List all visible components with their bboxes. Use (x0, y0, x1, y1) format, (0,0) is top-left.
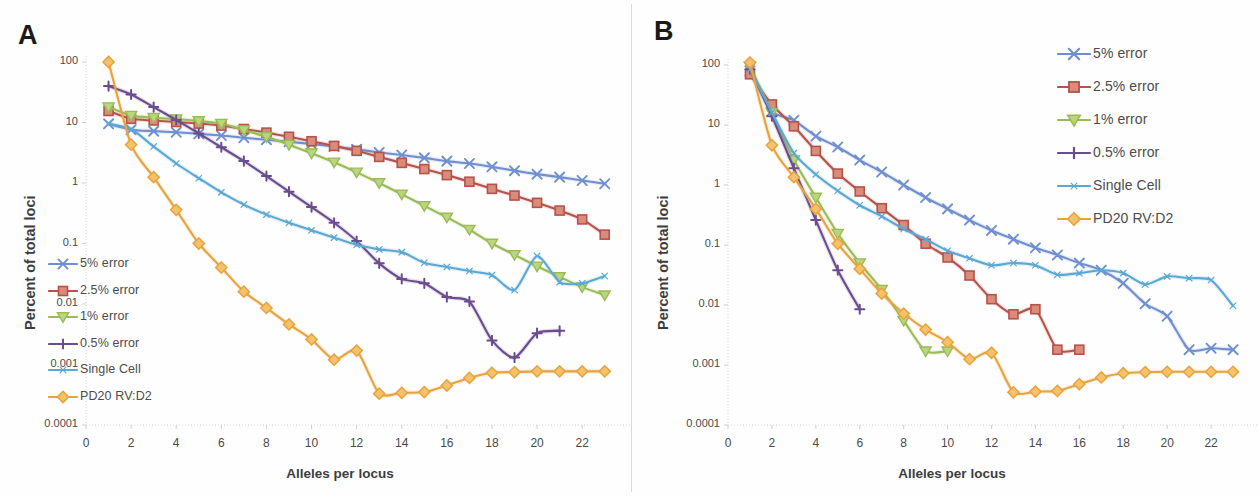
legend-item-0-5-error[interactable]: 0.5% error (1057, 135, 1173, 168)
legend-item-label: 0.5% error (80, 336, 139, 350)
legend-item-label: 1% error (1093, 111, 1147, 127)
panel-b: B Percent of total loci Alleles per locu… (632, 0, 1260, 498)
legend-item-1-error[interactable]: 1% error (1057, 102, 1173, 135)
legend-marker-icon (1057, 79, 1091, 93)
legend-item-label: 2.5% error (1093, 78, 1159, 94)
legend-item-1-error[interactable]: 1% error (48, 303, 152, 330)
legend-marker-icon (1057, 178, 1091, 192)
legend-item-label: Single Cell (80, 362, 141, 376)
legend-item-2-5-error[interactable]: 2.5% error (1057, 69, 1173, 102)
series-pd20-rv-d2 (103, 56, 610, 399)
legend-item-label: 5% error (1093, 45, 1147, 61)
series-2-5-error (745, 70, 1083, 354)
legend-item-2-5-error[interactable]: 2.5% error (48, 277, 152, 304)
legend-item-label: 2.5% error (80, 283, 139, 297)
legend-marker-icon (48, 256, 78, 270)
legend-marker-icon (48, 362, 78, 376)
legend-item-single-cell[interactable]: Single Cell (1057, 168, 1173, 201)
legend-item-0-5-error[interactable]: 0.5% error (48, 330, 152, 357)
panel-a: A Percent of total loci Alleles per locu… (0, 0, 632, 498)
legend-item-single-cell[interactable]: Single Cell (48, 356, 152, 383)
panel-a-legend: 5% error2.5% error1% error0.5% errorSing… (48, 250, 152, 409)
legend-marker-icon (48, 283, 78, 297)
legend-marker-icon (1057, 145, 1091, 159)
legend-item-label: 1% error (80, 309, 129, 323)
legend-marker-icon (1057, 211, 1091, 225)
figure-container: A Percent of total loci Alleles per locu… (0, 0, 1260, 498)
panel-b-legend: 5% error2.5% error1% error0.5% errorSing… (1057, 36, 1173, 234)
panel-a-plot (0, 0, 632, 498)
legend-marker-icon (48, 389, 78, 403)
legend-marker-icon (48, 336, 78, 350)
legend-item-label: PD20 RV:D2 (80, 389, 152, 403)
legend-marker-icon (1057, 46, 1091, 60)
legend-marker-icon (1057, 112, 1091, 126)
legend-item-5-error[interactable]: 5% error (1057, 36, 1173, 69)
legend-item-pd20-rv-d2[interactable]: PD20 RV:D2 (1057, 201, 1173, 234)
legend-item-5-error[interactable]: 5% error (48, 250, 152, 277)
legend-item-label: 0.5% error (1093, 144, 1159, 160)
legend-item-label: 5% error (80, 256, 129, 270)
legend-item-label: PD20 RV:D2 (1093, 210, 1173, 226)
legend-item-label: Single Cell (1093, 177, 1161, 193)
legend-marker-icon (48, 309, 78, 323)
legend-item-pd20-rv-d2[interactable]: PD20 RV:D2 (48, 383, 152, 410)
